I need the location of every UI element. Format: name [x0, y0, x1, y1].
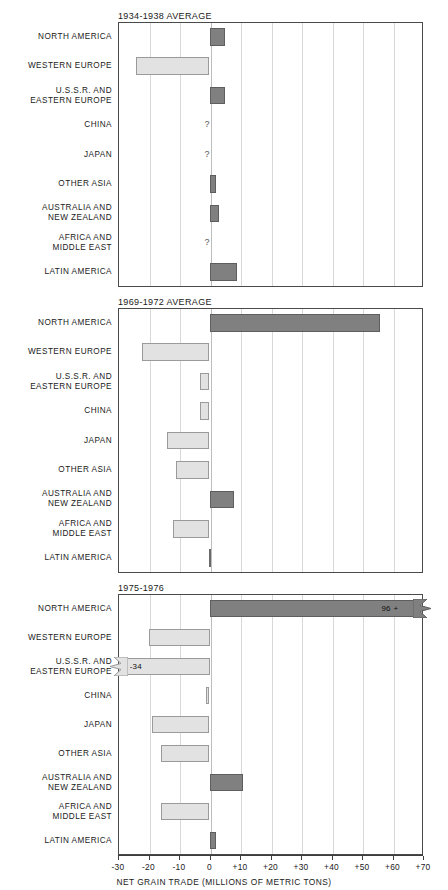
row-label-1-0: NORTH AMERICA	[0, 32, 112, 42]
bar-2-0	[210, 314, 381, 332]
row-label-1-8: LATIN AMERICA	[0, 267, 112, 277]
row-label-3-4: JAPAN	[0, 720, 112, 730]
row-label-3-3: CHINA	[0, 691, 112, 701]
offscale-label-3-2: -34	[130, 662, 142, 671]
row-label-3-2: U.S.S.R. AND EASTERN EUROPE	[0, 657, 112, 677]
gridline-40	[333, 309, 334, 572]
bar-3-1	[149, 629, 210, 646]
row-label-2-8: LATIN AMERICA	[0, 553, 112, 563]
bar-2-2	[200, 373, 209, 391]
offscale-label-3-0: 96 +	[381, 604, 398, 613]
bar-2-5	[176, 461, 210, 479]
bar-2-4	[167, 432, 210, 450]
gridline-40	[333, 595, 334, 854]
x-tick-50	[362, 856, 363, 860]
bar-3-8	[210, 832, 216, 849]
row-label-3-7: AFRICA AND MIDDLE EAST	[0, 802, 112, 822]
gridline-30	[302, 595, 303, 854]
row-label-1-2: U.S.S.R. AND EASTERN EUROPE	[0, 86, 112, 106]
gridline-10	[241, 309, 242, 572]
unknown-marker-1-4: ?	[205, 149, 210, 159]
gridline-50	[363, 23, 364, 286]
grain-trade-figure: 1934-1938 AVERAGENORTH AMERICAWESTERN EU…	[0, 0, 448, 890]
bar-3-3	[206, 687, 209, 704]
gridline-50	[363, 595, 364, 854]
row-label-1-1: WESTERN EUROPE	[0, 61, 112, 71]
x-tick-70	[423, 856, 424, 860]
bar-3-6	[210, 774, 244, 791]
gridline-10	[241, 23, 242, 286]
row-label-2-0: NORTH AMERICA	[0, 318, 112, 328]
gridline-60	[394, 309, 395, 572]
gridline-0	[211, 23, 212, 286]
x-tick--30	[118, 856, 119, 860]
x-tick-10	[240, 856, 241, 860]
gridline-20	[272, 309, 273, 572]
gridline-60	[394, 23, 395, 286]
row-label-1-3: CHINA	[0, 120, 112, 130]
bar-3-4	[152, 716, 210, 733]
bar-1-0	[210, 28, 225, 46]
row-label-1-7: AFRICA AND MIDDLE EAST	[0, 233, 112, 253]
unknown-marker-1-3: ?	[205, 119, 210, 129]
x-tick--10	[179, 856, 180, 860]
bar-3-5	[161, 745, 210, 762]
row-label-2-5: OTHER ASIA	[0, 465, 112, 475]
bar-3-7	[161, 803, 210, 820]
gridline-30	[302, 309, 303, 572]
x-tick-60	[393, 856, 394, 860]
x-tick-label-70: +70	[403, 862, 443, 872]
gridline-20	[272, 595, 273, 854]
row-label-2-7: AFRICA AND MIDDLE EAST	[0, 519, 112, 539]
gridline-0	[211, 309, 212, 572]
bar-1-6	[210, 205, 219, 223]
row-label-1-4: JAPAN	[0, 150, 112, 160]
gridline-0	[211, 595, 212, 854]
x-tick-40	[332, 856, 333, 860]
bar-2-8	[209, 549, 211, 567]
bar-2-7	[173, 520, 210, 538]
x-tick-20	[271, 856, 272, 860]
bar-2-6	[210, 491, 234, 509]
bar-1-1	[136, 57, 209, 75]
row-label-3-8: LATIN AMERICA	[0, 836, 112, 846]
bar-1-8	[210, 263, 237, 281]
bar-2-1	[142, 343, 209, 361]
row-label-3-1: WESTERN EUROPE	[0, 633, 112, 643]
bar-2-3	[200, 402, 209, 420]
panel-title-2: 1969-1972 AVERAGE	[118, 297, 212, 307]
gridline-40	[333, 23, 334, 286]
row-label-2-6: AUSTRALIA AND NEW ZEALAND	[0, 489, 112, 509]
bar-1-2	[210, 87, 225, 105]
row-label-2-2: U.S.S.R. AND EASTERN EUROPE	[0, 372, 112, 392]
gridline-20	[272, 23, 273, 286]
x-tick-30	[301, 856, 302, 860]
x-tick--20	[149, 856, 150, 860]
gridline-50	[363, 309, 364, 572]
gridline-10	[241, 595, 242, 854]
row-label-3-5: OTHER ASIA	[0, 749, 112, 759]
row-label-1-6: AUSTRALIA AND NEW ZEALAND	[0, 203, 112, 223]
x-tick-0	[210, 856, 211, 860]
panel-title-3: 1975-1976	[118, 583, 164, 593]
unknown-marker-1-7: ?	[205, 237, 210, 247]
bar-1-5	[210, 175, 216, 193]
offscale-marker-3-2	[110, 657, 128, 676]
gridline-30	[302, 23, 303, 286]
row-label-2-4: JAPAN	[0, 436, 112, 446]
row-label-3-6: AUSTRALIA AND NEW ZEALAND	[0, 773, 112, 793]
gridline-60	[394, 595, 395, 854]
offscale-marker-3-0	[413, 599, 431, 618]
x-axis-title: NET GRAIN TRADE (MILLIONS OF METRIC TONS…	[0, 877, 448, 887]
row-label-1-5: OTHER ASIA	[0, 179, 112, 189]
row-label-2-1: WESTERN EUROPE	[0, 347, 112, 357]
panel-title-1: 1934-1938 AVERAGE	[118, 11, 212, 21]
row-label-3-0: NORTH AMERICA	[0, 604, 112, 614]
row-label-2-3: CHINA	[0, 406, 112, 416]
